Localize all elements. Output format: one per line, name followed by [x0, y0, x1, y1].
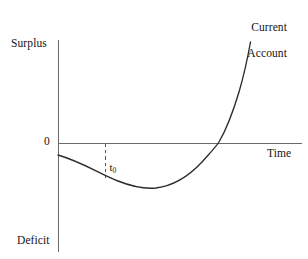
t0-marker-label: t0: [98, 149, 116, 188]
t0-subscript-glyph: 0: [113, 166, 117, 175]
y-axis-deficit-label: Deficit: [17, 234, 50, 247]
current-account-curve-label: Current Account: [227, 8, 287, 85]
current-account-curve: [58, 42, 251, 188]
x-axis-time-label: Time: [267, 147, 291, 160]
y-axis-surplus-label: Surplus: [11, 37, 47, 50]
origin-zero-label: 0: [44, 135, 50, 148]
curve-label-line-2: Account: [227, 47, 287, 60]
current-account-j-curve-figure: Surplus Deficit 0 Time Current Account t…: [0, 0, 308, 259]
curve-label-line-1: Current: [251, 21, 287, 33]
